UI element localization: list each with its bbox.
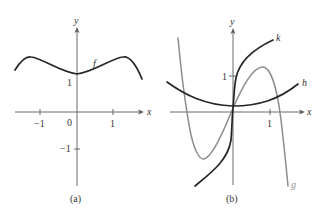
panel-a: x y −1 0 1 1 −1 f (a) [15, 15, 152, 205]
panel-a-x-label: x [146, 106, 152, 117]
panel-b: x y 1 1 g h k (b) [167, 16, 312, 205]
panel-b-y-label: y [229, 16, 235, 27]
panel-b-caption: (b) [226, 193, 238, 205]
panel-a-origin-label: 0 [67, 117, 72, 128]
panel-b-x-tick-label-1: 1 [267, 118, 272, 129]
panel-a-y-tick-label-1: 1 [67, 77, 72, 88]
curve-k [195, 40, 273, 186]
panel-a-caption: (a) [70, 193, 81, 205]
curve-h-label: h [302, 77, 307, 88]
panel-b-x-label: x [306, 106, 312, 117]
curve-f [15, 57, 142, 79]
curve-k-label: k [276, 32, 281, 43]
curve-g-label: g [291, 179, 296, 190]
panel-a-x-tick-label-1: 1 [110, 118, 115, 129]
figure: x y −1 0 1 1 −1 f (a) x [0, 0, 326, 221]
panel-a-y-tick-label-neg1: −1 [60, 143, 71, 154]
panel-b-y-tick-label-1: 1 [222, 71, 227, 82]
panel-a-y-label: y [73, 15, 79, 26]
panel-a-x-tick-label-neg1: −1 [34, 118, 45, 129]
